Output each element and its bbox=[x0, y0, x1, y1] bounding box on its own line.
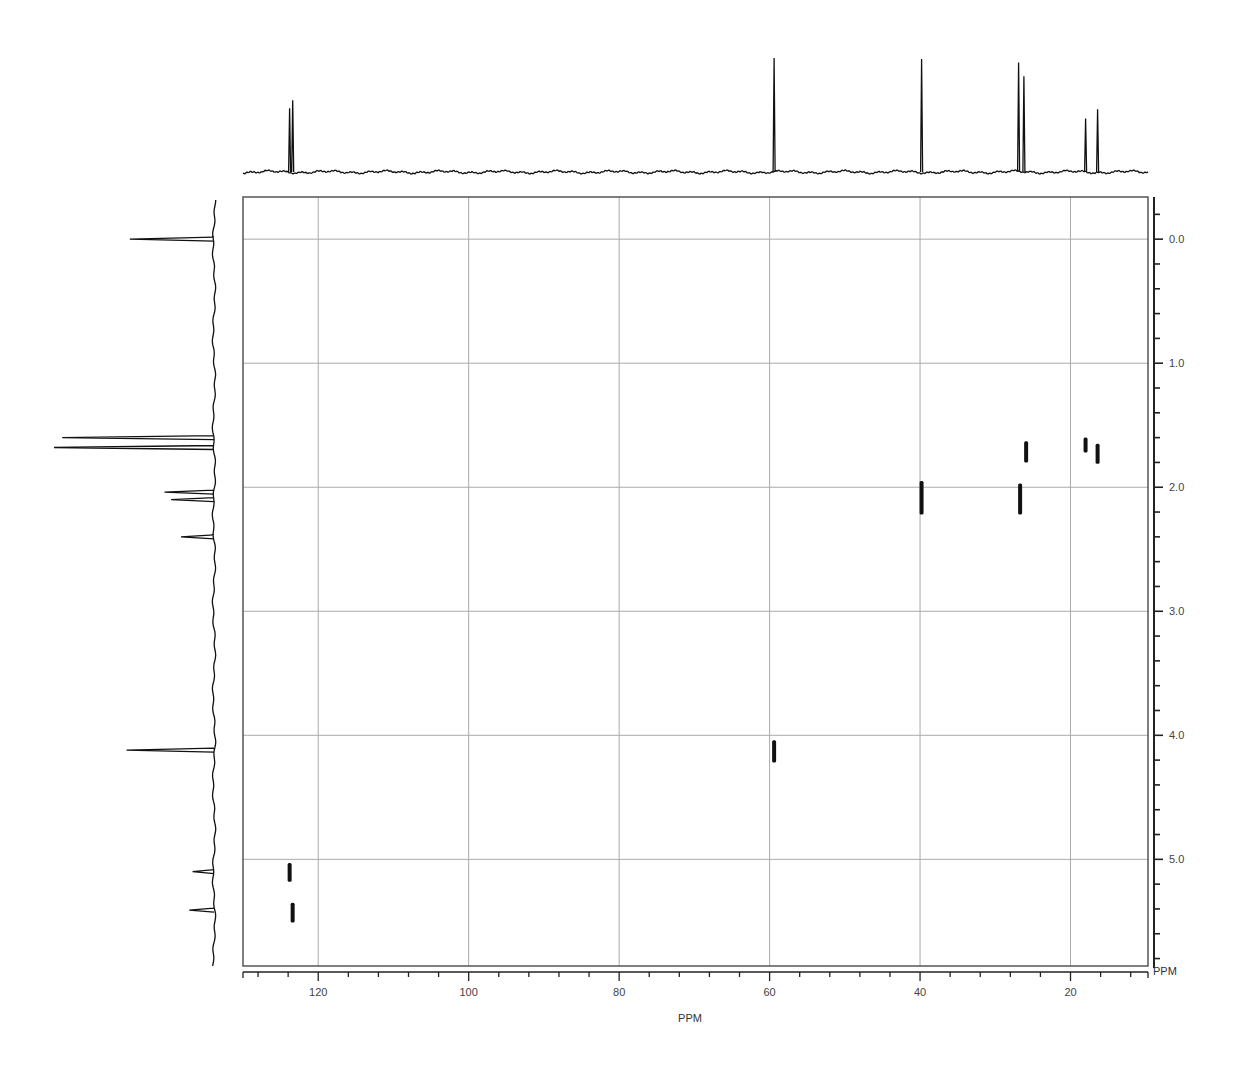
x-axis-unit-label: PPM bbox=[1153, 965, 1177, 977]
x-tick-label: 80 bbox=[613, 986, 625, 998]
x-tick-label: 100 bbox=[460, 986, 478, 998]
plot-frame bbox=[243, 197, 1148, 966]
x-tick-label: 60 bbox=[763, 986, 775, 998]
cross-peak bbox=[288, 863, 292, 882]
x-tick-label: 40 bbox=[914, 986, 926, 998]
y-tick-label: 3.0 bbox=[1169, 605, 1184, 617]
y-tick-label: 5.0 bbox=[1169, 853, 1184, 865]
x-tick-label: 20 bbox=[1064, 986, 1076, 998]
grid-lines bbox=[243, 197, 1148, 966]
y-tick-label: 0.0 bbox=[1169, 233, 1184, 245]
cross-peak bbox=[1024, 441, 1028, 462]
x-axis-title: PPM bbox=[678, 1012, 702, 1024]
y-axis: 0.01.02.03.04.05.0 bbox=[1154, 197, 1184, 968]
cross-peak bbox=[1096, 444, 1100, 464]
y-tick-label: 1.0 bbox=[1169, 357, 1184, 369]
cross-peak bbox=[291, 903, 295, 923]
cross-peak bbox=[1018, 484, 1022, 515]
h1-projection-spectrum bbox=[54, 200, 216, 966]
x-axis: 12010080604020 bbox=[243, 972, 1148, 998]
cross-peaks bbox=[288, 438, 1100, 923]
c13-projection-spectrum bbox=[243, 58, 1148, 174]
cross-peak bbox=[920, 481, 924, 514]
x-tick-label: 120 bbox=[309, 986, 327, 998]
cross-peak bbox=[772, 740, 776, 762]
cross-peak bbox=[1084, 438, 1088, 453]
y-tick-label: 4.0 bbox=[1169, 729, 1184, 741]
hsqc-chart: 12010080604020 0.01.02.03.04.05.0 PPM PP… bbox=[0, 0, 1247, 1078]
y-tick-label: 2.0 bbox=[1169, 481, 1184, 493]
